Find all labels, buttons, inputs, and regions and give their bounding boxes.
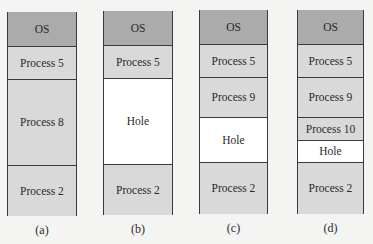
block-label: Hole: [222, 134, 244, 146]
panel-caption: (c): [214, 221, 254, 236]
memory-column-d: OSProcess 5Process 9Process 10HoleProces…: [297, 10, 364, 214]
process-block: Process 10: [298, 118, 363, 141]
block-label: Process 9: [309, 91, 353, 103]
process-block: Process 2: [298, 163, 363, 214]
block-label: Process 5: [309, 55, 353, 67]
panel-caption: (a): [22, 223, 62, 238]
process-block: Process 5: [200, 45, 267, 78]
block-label: Process 2: [309, 182, 353, 194]
process-block: Process 9: [200, 78, 267, 118]
hole-block: Hole: [104, 79, 172, 165]
process-block: Process 9: [298, 78, 363, 118]
process-block: Process 5: [8, 47, 76, 80]
block-label: Process 2: [20, 185, 64, 197]
block-label: OS: [35, 23, 50, 35]
process-block: Process 5: [298, 45, 363, 78]
process-block: Process 2: [200, 163, 267, 214]
memory-column-b: OSProcess 5HoleProcess 2: [103, 11, 173, 215]
hole-block: Hole: [298, 141, 363, 163]
block-label: Hole: [127, 115, 149, 127]
block-label: Process 5: [212, 55, 256, 67]
process-block: Process 5: [104, 46, 172, 79]
process-block: Process 2: [104, 165, 172, 215]
block-label: Process 8: [20, 116, 64, 128]
hole-block: Hole: [200, 118, 267, 163]
block-label: Hole: [319, 145, 341, 157]
block-label: Process 5: [20, 57, 64, 69]
block-label: Process 5: [116, 56, 160, 68]
block-label: Process 2: [116, 184, 160, 196]
block-label: Process 2: [212, 182, 256, 194]
process-block: Process 8: [8, 80, 76, 166]
process-block: Process 2: [8, 166, 76, 216]
memory-column-a: OSProcess 5Process 8Process 2: [7, 12, 77, 216]
panel-caption: (d): [311, 221, 351, 236]
os-block: OS: [104, 11, 172, 46]
memory-column-c: OSProcess 5Process 9HoleProcess 2: [199, 10, 268, 214]
os-block: OS: [298, 10, 363, 45]
os-block: OS: [8, 12, 76, 47]
os-block: OS: [200, 10, 267, 45]
block-label: Process 9: [212, 91, 256, 103]
block-label: OS: [226, 21, 241, 33]
block-label: OS: [323, 21, 338, 33]
block-label: Process 10: [306, 123, 356, 135]
block-label: OS: [131, 22, 146, 34]
panel-caption: (b): [118, 222, 158, 237]
